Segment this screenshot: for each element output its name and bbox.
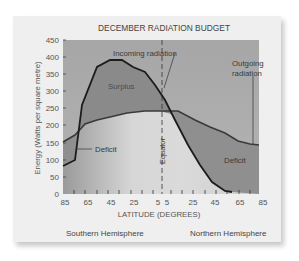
svg-text:65: 65 — [236, 198, 245, 207]
svg-text:150: 150 — [46, 139, 60, 148]
svg-text:5: 5 — [165, 198, 170, 207]
svg-text:25: 25 — [189, 198, 198, 207]
outgoing-radiation-label-line2: radiation — [232, 69, 262, 78]
svg-text:250: 250 — [46, 104, 60, 113]
x-axis-title: LATITUDE (DEGREES) — [118, 210, 201, 219]
svg-text:25: 25 — [130, 198, 139, 207]
surplus-label: Surplus — [108, 82, 135, 91]
svg-text:85: 85 — [61, 198, 70, 207]
y-axis-title: Energy (Watts per square metre) — [33, 61, 42, 175]
svg-text:65: 65 — [84, 198, 93, 207]
svg-text:400: 400 — [46, 53, 60, 62]
svg-text:200: 200 — [46, 121, 60, 130]
northern-hemisphere-label: Northern Hemisphere — [190, 229, 267, 238]
radiation-budget-chart: 450 400 350 300 250 200 150 100 50 0 85 … — [0, 0, 299, 261]
svg-text:100: 100 — [46, 156, 60, 165]
svg-text:45: 45 — [107, 198, 116, 207]
deficit-label-right: Deficit — [224, 156, 246, 165]
incoming-radiation-label: Incoming radiation — [113, 49, 177, 58]
svg-text:0: 0 — [55, 190, 60, 199]
y-tick-labels: 450 400 350 300 250 200 150 100 50 0 — [46, 36, 60, 199]
svg-text:350: 350 — [46, 70, 60, 79]
deficit-label-left: Deficit — [95, 145, 117, 154]
svg-text:85: 85 — [259, 198, 268, 207]
svg-text:45: 45 — [211, 198, 220, 207]
svg-text:5: 5 — [156, 198, 161, 207]
outgoing-radiation-label-line1: Outgoing — [232, 59, 264, 68]
southern-hemisphere-label: Southern Hemisphere — [66, 229, 144, 238]
equator-label: Equator — [158, 138, 167, 164]
svg-text:50: 50 — [50, 173, 59, 182]
x-tick-labels: 85 65 45 25 5 5 25 45 65 85 — [61, 198, 268, 207]
chart-title: DECEMBER RADIATION BUDGET — [98, 23, 230, 33]
svg-text:300: 300 — [46, 87, 60, 96]
svg-text:450: 450 — [46, 36, 60, 45]
